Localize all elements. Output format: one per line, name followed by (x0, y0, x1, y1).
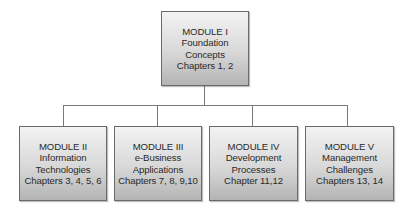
module-i-box: MODULE I Foundation Concepts Chapters 1,… (161, 11, 249, 86)
connector-root-down (204, 85, 205, 105)
module-v-label: MODULE V (325, 141, 374, 152)
connector-drop-module-v (347, 105, 348, 126)
module-v-title-line-2: Challenges (326, 164, 373, 175)
module-iii-title-line-1: e-Business (135, 152, 181, 163)
module-iv-label: MODULE IV (228, 141, 280, 152)
module-v-box: MODULE V Management Challenges Chapters … (305, 126, 394, 201)
module-iv-box: MODULE IV Development Processes Chapter … (209, 126, 298, 201)
module-ii-label: MODULE II (39, 141, 87, 152)
connector-drop-module-iii (157, 105, 158, 126)
module-i-label: MODULE I (182, 26, 228, 37)
module-i-title-line-1: Foundation (181, 37, 228, 48)
module-iii-box: MODULE III e-Business Applications Chapt… (114, 126, 202, 201)
module-v-chapters: Chapters 13, 14 (316, 175, 383, 186)
module-iii-title-line-2: Applications (133, 164, 184, 175)
module-ii-box: MODULE II Information Technologies Chapt… (19, 126, 107, 201)
module-ii-chapters: Chapters 3, 4, 5, 6 (24, 175, 101, 186)
module-i-chapters: Chapters 1, 2 (177, 60, 233, 71)
module-iv-chapters: Chapter 11,12 (224, 175, 283, 186)
module-ii-title-line-2: Technologies (36, 164, 91, 175)
connector-drop-module-iv (252, 105, 253, 126)
connector-horizontal (63, 105, 348, 106)
module-iv-title-line-1: Development (226, 152, 281, 163)
module-v-title-line-1: Management (322, 152, 377, 163)
module-i-title-line-2: Concepts (185, 49, 225, 60)
connector-drop-module-ii (63, 105, 64, 126)
module-iii-label: MODULE III (133, 141, 184, 152)
module-iv-title-line-2: Processes (232, 164, 276, 175)
module-ii-title-line-1: Information (40, 152, 87, 163)
module-iii-chapters: Chapters 7, 8, 9,10 (118, 175, 198, 186)
